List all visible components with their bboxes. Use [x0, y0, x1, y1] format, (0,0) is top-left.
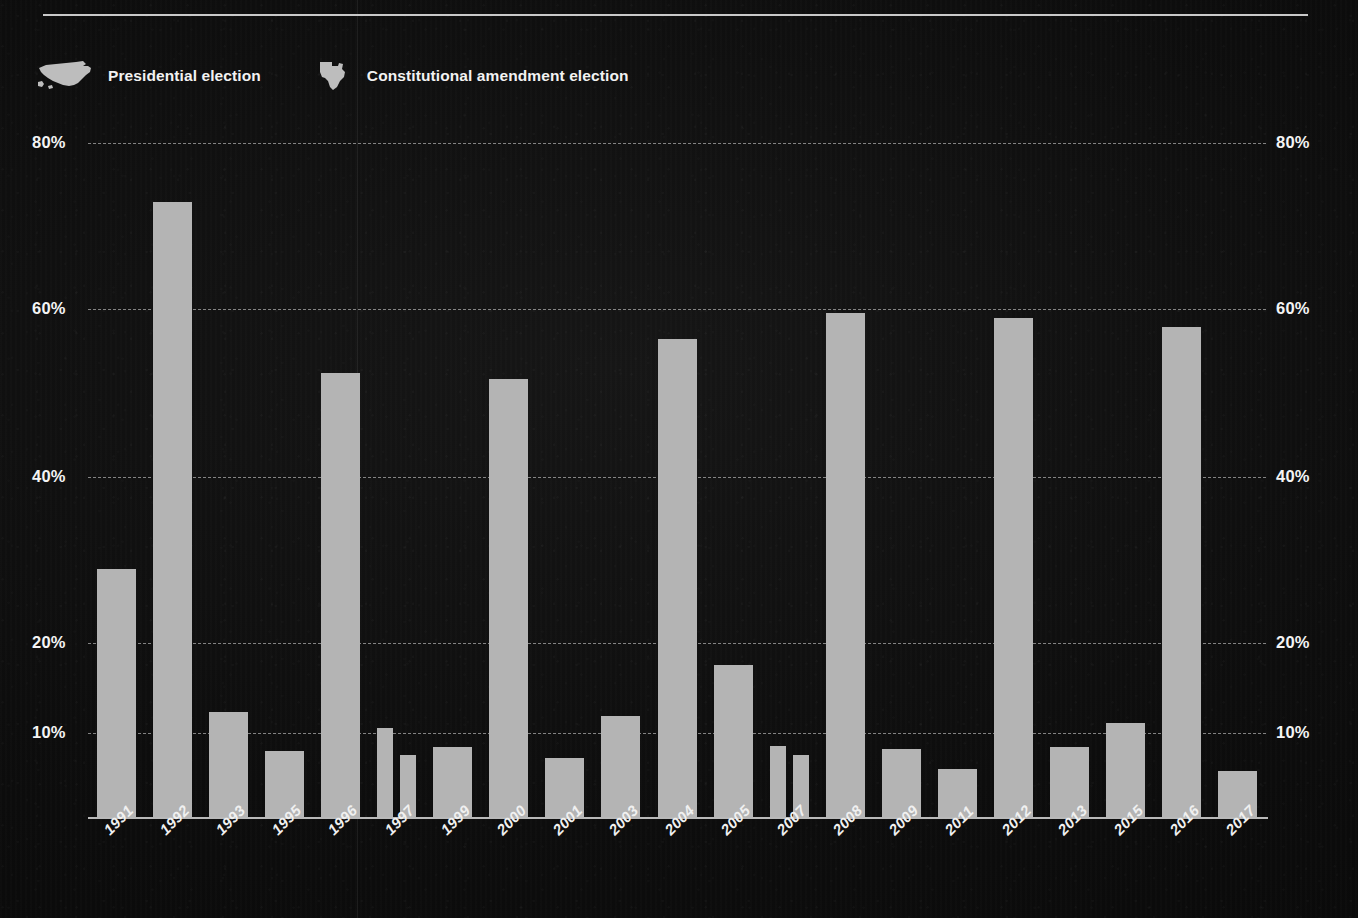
y-tick-right-10: 10%: [1276, 723, 1310, 742]
us-map-icon: [36, 59, 94, 93]
y-tick-right-60: 60%: [1276, 299, 1310, 318]
y-tick-left-20: 20%: [32, 633, 66, 652]
legend-label-amendment: Constitutional amendment election: [367, 67, 629, 85]
bar-1996[interactable]: [321, 373, 360, 818]
y-tick-right-80: 80%: [1276, 133, 1310, 152]
y-tick-right-40: 40%: [1276, 467, 1310, 486]
bar-1991[interactable]: [97, 569, 136, 818]
texas-map-icon: [313, 59, 353, 93]
plot-area: [88, 143, 1266, 818]
chart-page: Presidential election Constitutional ame…: [0, 0, 1358, 918]
bar-1992[interactable]: [153, 202, 192, 818]
chart-legend: Presidential election Constitutional ame…: [36, 56, 681, 96]
gridline-60: [88, 309, 1266, 310]
legend-item-presidential[interactable]: Presidential election: [36, 59, 261, 93]
bar-2016[interactable]: [1162, 327, 1201, 818]
y-tick-left-60: 60%: [32, 299, 66, 318]
legend-item-amendment[interactable]: Constitutional amendment election: [313, 59, 629, 93]
bar-2007[interactable]: [770, 746, 786, 818]
bar-2005[interactable]: [714, 665, 753, 818]
bar-2004[interactable]: [658, 339, 697, 818]
bar-2003[interactable]: [601, 716, 640, 818]
gridline-80: [88, 143, 1266, 144]
y-tick-left-80: 80%: [32, 133, 66, 152]
bar-2015[interactable]: [1106, 723, 1145, 818]
bar-1993[interactable]: [209, 712, 248, 819]
y-tick-left-10: 10%: [32, 723, 66, 742]
y-tick-right-20: 20%: [1276, 633, 1310, 652]
bar-2008[interactable]: [826, 313, 865, 818]
bar-1997[interactable]: [377, 728, 393, 818]
top-rule: [43, 14, 1308, 16]
legend-label-presidential: Presidential election: [108, 67, 261, 85]
y-tick-left-40: 40%: [32, 467, 66, 486]
bar-2012[interactable]: [994, 318, 1033, 818]
bar-2000[interactable]: [489, 379, 528, 818]
